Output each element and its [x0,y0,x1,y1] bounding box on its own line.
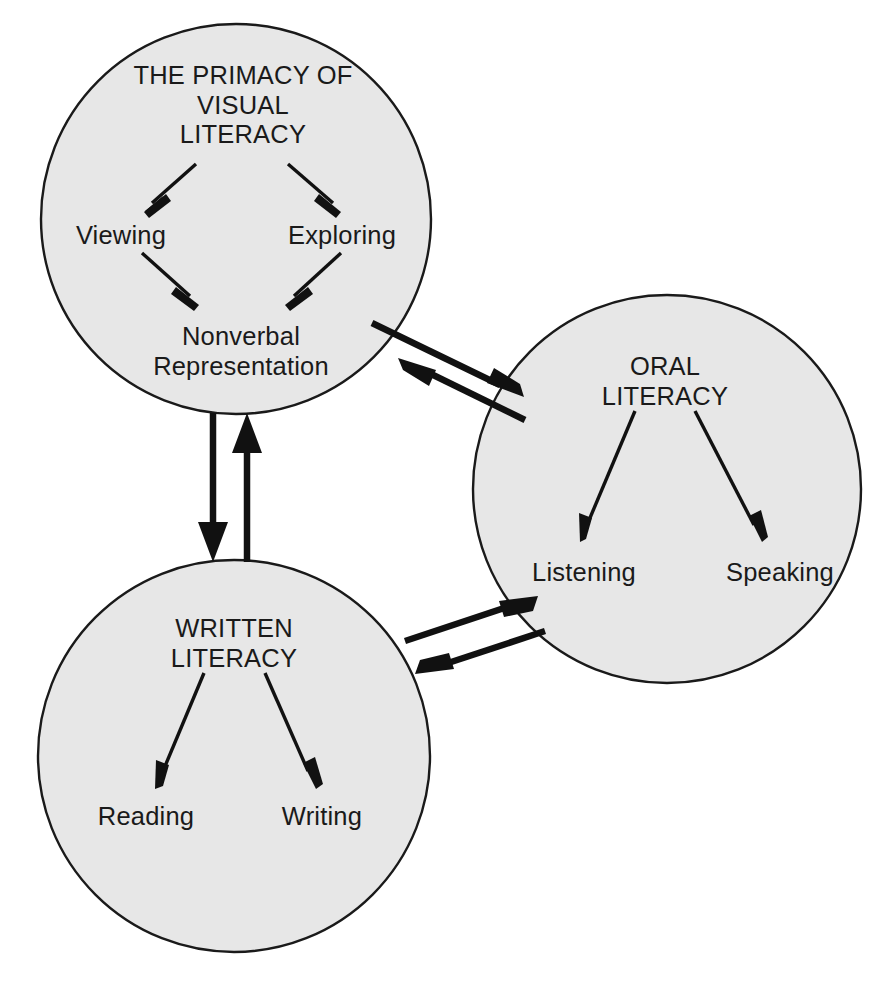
circle-oral-literacy[interactable] [473,295,861,683]
connector-written-oral[interactable] [405,596,545,674]
connector-visual-written[interactable] [198,413,262,562]
diagram-canvas: THE PRIMACY OF VISUAL LITERACY Viewing E… [0,0,891,986]
circle-visual-literacy[interactable] [41,24,431,414]
diagram-graphics [0,0,891,986]
circle-written-literacy[interactable] [38,560,430,952]
connector-visual-oral[interactable] [372,323,525,420]
